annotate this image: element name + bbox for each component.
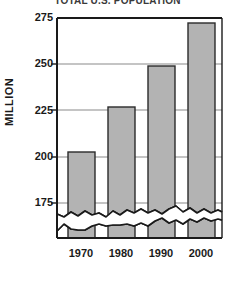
chart-container: TOTAL U.S. POPULATION MILLION 275 250 22…: [0, 0, 235, 291]
bar-2000[interactable]: [188, 23, 215, 238]
bars: [68, 23, 215, 238]
x-tick-label-2000: 2000: [177, 247, 225, 259]
